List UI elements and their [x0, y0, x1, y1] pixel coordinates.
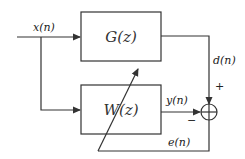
plus-sign: + [215, 80, 224, 93]
input-signal-path [17, 37, 80, 110]
plant-block-label: G(z) [105, 28, 137, 46]
output-label: y(n) [165, 94, 188, 107]
minus-sign: − [187, 114, 196, 127]
desired-label: d(n) [213, 54, 236, 67]
block-diagram: x(n) G(z) W(z) d(n) y(n) + − e(n) [0, 0, 245, 159]
input-label: x(n) [33, 21, 55, 34]
error-label: e(n) [168, 136, 190, 149]
summing-junction [201, 104, 217, 120]
